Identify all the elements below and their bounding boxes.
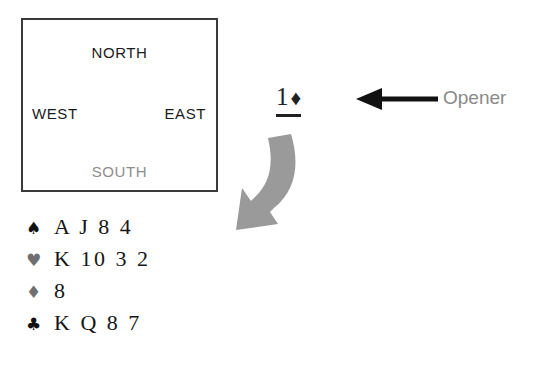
compass-label-north: NORTH <box>23 44 216 61</box>
compass-box: NORTH WEST EAST SOUTH <box>21 18 218 192</box>
compass-label-west: WEST <box>32 105 78 122</box>
bridge-bidding-diagram: NORTH WEST EAST SOUTH 1♦ Opener ♠ A J 8 … <box>0 0 538 372</box>
hand-cards-clubs: K Q 8 7 <box>54 307 142 339</box>
hand-row: ♣ K Q 8 7 <box>26 307 276 339</box>
hand-row: ♠ A J 8 4 <box>26 211 276 243</box>
hand-holding: ♠ A J 8 4 ♥ K 10 3 2 ♦ 8 ♣ K Q 8 7 <box>26 211 276 339</box>
hand-cards-hearts: K 10 3 2 <box>54 243 150 275</box>
hand-row: ♥ K 10 3 2 <box>26 243 276 275</box>
hand-row: ♦ 8 <box>26 275 276 307</box>
compass-label-south: SOUTH <box>23 163 216 180</box>
bid-level: 1 <box>276 83 289 110</box>
compass-label-east: EAST <box>164 105 206 122</box>
spade-icon: ♠ <box>26 212 54 244</box>
heart-icon: ♥ <box>26 244 54 276</box>
hand-cards-diamonds: 8 <box>54 275 68 307</box>
diamond-icon: ♦ <box>291 86 302 110</box>
club-icon: ♣ <box>26 308 54 340</box>
bid-label: 1♦ <box>276 84 301 117</box>
opener-label: Opener <box>443 87 506 109</box>
diamond-icon: ♦ <box>26 276 54 308</box>
opener-arrow-icon <box>356 86 438 112</box>
hand-cards-spades: A J 8 4 <box>54 211 133 243</box>
